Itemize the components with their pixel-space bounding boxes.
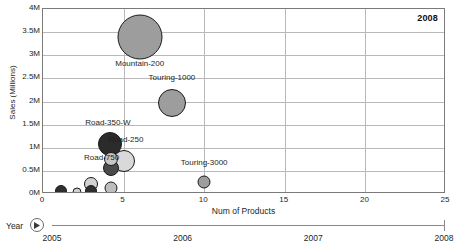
y-tick-label: 2.5M bbox=[2, 73, 40, 81]
gridline-horizontal bbox=[43, 32, 444, 33]
plot-area[interactable]: 2008 Mountain-200Touring-1000Road-250Roa… bbox=[42, 8, 445, 193]
year-tick-label[interactable]: 2008 bbox=[424, 233, 460, 243]
current-year-stamp: 2008 bbox=[417, 13, 438, 23]
year-label: Year bbox=[6, 221, 23, 231]
bubble-label-touring-1000: Touring-1000 bbox=[149, 73, 196, 82]
y-tick-label: 1M bbox=[2, 143, 40, 151]
y-tick-label: 2M bbox=[2, 97, 40, 105]
y-tick-label: 0.5M bbox=[2, 166, 40, 174]
year-slider-track[interactable] bbox=[52, 225, 444, 226]
y-axis-ticks: 0M0.5M1M1.5M2M2.5M3M3.5M4M bbox=[0, 0, 40, 201]
bubble-chart-root: Sales (Millions) 0M0.5M1M1.5M2M2.5M3M3.5… bbox=[0, 0, 460, 251]
bubble-label-touring-3000: Touring-3000 bbox=[181, 158, 228, 167]
x-tick-label: 15 bbox=[269, 195, 299, 204]
y-tick-label: 4M bbox=[2, 4, 40, 12]
y-tick-label: 1.5M bbox=[2, 120, 40, 128]
bubble-cluster-a-base[interactable] bbox=[104, 181, 117, 193]
bubble-cluster-d-dark[interactable] bbox=[55, 185, 67, 193]
bubble-cluster-c-light[interactable] bbox=[72, 188, 81, 193]
x-tick-label: 5 bbox=[108, 195, 138, 204]
year-tick-label[interactable]: 2006 bbox=[163, 233, 203, 243]
year-timeline[interactable]: Year 2005200620072008 bbox=[0, 216, 460, 251]
bubble-cluster-b-dark[interactable] bbox=[85, 185, 97, 193]
play-icon[interactable] bbox=[30, 218, 44, 232]
bubble-label-mountain-200: Mountain-200 bbox=[115, 59, 164, 68]
gridline-vertical bbox=[365, 9, 366, 192]
gridline-horizontal bbox=[43, 102, 444, 103]
gridline-horizontal bbox=[43, 55, 444, 56]
year-slider-handle[interactable] bbox=[444, 220, 445, 231]
x-axis-label: Num of Products bbox=[42, 206, 445, 216]
y-tick-label: 3.5M bbox=[2, 27, 40, 35]
bubble-touring-1000[interactable] bbox=[158, 89, 186, 117]
bubble-mountain-200[interactable] bbox=[117, 14, 162, 59]
bubble-touring-3000[interactable] bbox=[198, 176, 211, 189]
x-tick-label: 0 bbox=[27, 195, 57, 204]
year-tick-label[interactable]: 2007 bbox=[293, 233, 333, 243]
x-tick-label: 25 bbox=[430, 195, 460, 204]
gridline-horizontal bbox=[43, 78, 444, 79]
bubble-label-road-350-w: Road-350-W bbox=[85, 118, 130, 127]
gridline-vertical bbox=[285, 9, 286, 192]
bubble-label-road-250: Road-250 bbox=[108, 135, 143, 144]
x-tick-label: 20 bbox=[349, 195, 379, 204]
year-tick-label[interactable]: 2005 bbox=[32, 233, 72, 243]
bubble-label-road-750: Road-750 bbox=[84, 153, 119, 162]
y-tick-label: 3M bbox=[2, 50, 40, 58]
x-tick-label: 10 bbox=[188, 195, 218, 204]
